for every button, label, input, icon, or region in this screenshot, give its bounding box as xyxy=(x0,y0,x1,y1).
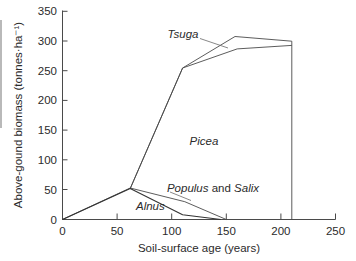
x-tick-label-0: 0 xyxy=(59,225,65,237)
series-label-picea: Picea xyxy=(190,135,219,147)
curve-tsuga xyxy=(130,37,292,189)
x-tick-labels: 0 50 100 150 200 250 xyxy=(59,225,345,237)
y-axis-ticks xyxy=(63,11,68,219)
succession-biomass-chart: 0 50 100 150 200 250 300 350 0 50 100 15… xyxy=(0,0,356,261)
series-label-alnus: Alnus xyxy=(135,200,165,212)
x-tick-label-200: 200 xyxy=(271,225,290,237)
x-tick-label-150: 150 xyxy=(217,225,236,237)
y-tick-label-300: 300 xyxy=(38,35,57,47)
y-tick-labels: 0 50 100 150 200 250 300 350 xyxy=(38,5,57,225)
y-tick-label-250: 250 xyxy=(38,65,57,77)
page-margin-rule xyxy=(0,20,2,128)
figure-container: 0 50 100 150 200 250 300 350 0 50 100 15… xyxy=(0,0,356,261)
series-label-populus-salix: Populus and Salix xyxy=(167,182,260,194)
y-tick-label-200: 200 xyxy=(38,94,57,106)
annotation-leaders xyxy=(170,39,228,201)
y-tick-label-350: 350 xyxy=(38,5,57,17)
x-tick-label-250: 250 xyxy=(326,225,345,237)
y-tick-label-0: 0 xyxy=(51,214,57,226)
y-tick-label-150: 150 xyxy=(38,124,57,136)
y-axis-title: Above-gound biomass (tonnes·ha⁻¹) xyxy=(12,22,24,208)
x-tick-label-50: 50 xyxy=(111,225,124,237)
y-tick-label-100: 100 xyxy=(38,154,57,166)
series-annotations: Tsuga Picea Populus and Salix Alnus xyxy=(135,28,260,212)
series-label-tsuga: Tsuga xyxy=(168,28,199,40)
y-tick-label-50: 50 xyxy=(44,184,57,196)
x-axis-title: Soil-surface age (years) xyxy=(138,242,260,254)
curve-picea xyxy=(130,45,292,188)
x-tick-label-100: 100 xyxy=(162,225,181,237)
